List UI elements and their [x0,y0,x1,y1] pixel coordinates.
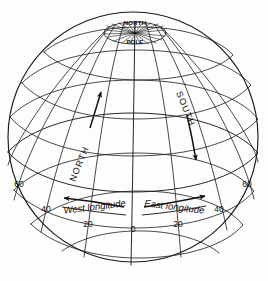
degree-label-40-east: 40 [214,204,224,214]
degree-label-0-prime: 0 [131,224,136,234]
north-arrow [90,92,101,128]
parallel-40S [31,191,243,258]
globe-graticule-figure: NORTH POLE NORTH SOUTH West longitude Ea… [0,0,268,281]
parallel-60S [62,231,219,253]
north-pole-label-line1: NORTH [124,20,146,26]
degree-label-20-east: 20 [173,219,183,229]
north-pole-label-line2: POLE [126,39,143,45]
degree-label-60-east: 60 [242,179,252,189]
north-direction-label: NORTH [68,145,91,183]
globe-svg: NORTH POLE NORTH SOUTH West longitude Ea… [0,0,268,281]
degree-label-60-west: 60 [14,179,24,189]
meridian-60E [161,28,254,199]
degree-label-20-west: 20 [83,219,93,229]
east-longitude-label: East longitude [144,197,205,215]
pole-center-dot [134,32,136,34]
west-longitude-label: West longitude [63,197,127,216]
degree-label-40-west: 40 [41,204,51,214]
